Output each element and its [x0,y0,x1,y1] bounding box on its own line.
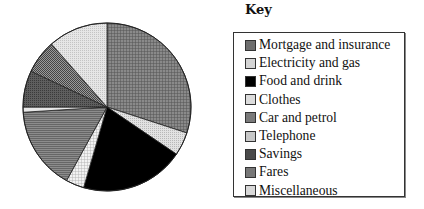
swatch-icon [245,167,256,178]
swatch-icon [245,131,256,142]
swatch-icon [245,94,256,105]
legend-label: Miscellaneous [259,183,338,199]
legend-label: Fares [259,164,288,180]
legend-label: Electricity and gas [259,55,360,71]
swatch-icon [245,58,256,69]
legend: Mortgage and insurance Electricity and g… [233,32,405,197]
legend-item-mortgage: Mortgage and insurance [234,36,404,54]
legend-item-savings: Savings [234,145,404,163]
legend-title: Key [245,2,272,17]
legend-item-clothes: Clothes [234,91,404,109]
swatch-icon [245,112,256,123]
legend-item-fares: Fares [234,163,404,181]
legend-label: Savings [259,146,302,162]
swatch-icon [245,149,256,160]
legend-label: Mortgage and insurance [259,37,390,53]
swatch-icon [245,76,256,87]
swatch-icon [245,40,256,51]
pie-slices [23,23,191,191]
legend-item-telephone: Telephone [234,127,404,145]
legend-item-food: Food and drink [234,72,404,90]
legend-item-electricity: Electricity and gas [234,54,404,72]
legend-label: Clothes [259,92,301,108]
swatch-icon [245,185,256,196]
legend-item-car: Car and petrol [234,109,404,127]
pie-chart [0,0,220,209]
legend-label: Car and petrol [259,110,337,126]
legend-label: Telephone [259,128,315,144]
legend-label: Food and drink [259,73,342,89]
legend-item-miscellaneous: Miscellaneous [234,182,404,200]
